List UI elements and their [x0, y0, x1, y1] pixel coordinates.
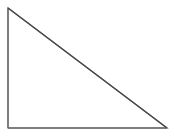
figure-canvas — [0, 0, 174, 136]
triangle-svg — [0, 0, 174, 136]
